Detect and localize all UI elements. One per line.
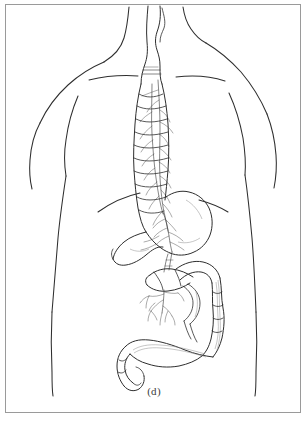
transverse-colon-lower (130, 354, 202, 367)
stomach-shading-1 (186, 200, 202, 219)
plexus-branch (159, 134, 169, 146)
scapular-line-left (89, 76, 138, 80)
colon-top-outer (176, 261, 220, 278)
waist-left (52, 176, 66, 312)
haustrum (213, 292, 222, 294)
plexus-branch (160, 122, 173, 133)
esophagus-segment (134, 158, 168, 161)
mesenteric-branch (164, 292, 178, 293)
haustrum (213, 305, 223, 307)
hip-left (51, 312, 53, 396)
esophagus-segment (134, 145, 168, 148)
plexus-branch (142, 154, 154, 166)
gastric-nerve-branch (154, 228, 167, 237)
esophagus-segment (135, 132, 168, 135)
stomach-greater-curvature (166, 191, 212, 255)
stomach-antrum (113, 232, 146, 259)
plexus-branch (142, 90, 158, 96)
duodenum-lower (147, 283, 190, 291)
colon-group (117, 261, 224, 390)
esophagus-right-wall (156, 6, 163, 84)
gastric-plexus (141, 212, 184, 252)
plexus-branch (147, 100, 159, 112)
mesenteric-branch (160, 313, 162, 325)
figure-caption: (d) (0, 385, 308, 397)
mesenteric-plexus (140, 290, 184, 325)
mesenteric-branch (148, 311, 151, 321)
gastric-nerve-branch (168, 232, 183, 241)
neck-left (104, 7, 129, 62)
small-intestine-group (183, 284, 200, 342)
ascending-colon-inner (202, 283, 213, 356)
gastric-nerve-branch (170, 242, 184, 250)
duodenum-mid-line (154, 272, 163, 290)
esophagus-lower-left (134, 84, 146, 232)
right-arm-inner (229, 93, 245, 175)
costal-margin-right (199, 200, 228, 212)
waist-right (245, 175, 256, 312)
stomach-group (112, 191, 213, 265)
plexus-branch (140, 126, 152, 139)
figure-page: (d) (0, 0, 308, 421)
colon-top-inner (180, 272, 212, 283)
small-intestine-loop-2 (188, 284, 200, 324)
plexus-branch (141, 140, 153, 152)
mesenteric-branch (172, 316, 175, 325)
mesenteric-branch (151, 311, 157, 320)
mesenteric-main-trunk (162, 290, 164, 313)
costal-margin-left (98, 193, 140, 212)
transverse-taenia-2 (134, 348, 206, 357)
esophagus-segment (134, 171, 168, 174)
duodenum-left-cap (146, 275, 150, 285)
body-outline-group (30, 7, 277, 396)
stomach-antrum-lower (113, 247, 163, 265)
gastric-nerve-branch (153, 219, 165, 228)
mesenteric-branch (151, 300, 163, 311)
esophagus-group (134, 6, 169, 232)
gastric-nerve-branch (156, 236, 169, 245)
transverse-taenia-1 (133, 345, 205, 354)
plexus-branch (160, 176, 171, 188)
mesenteric-branch (146, 296, 149, 308)
plexus-branch (149, 196, 159, 209)
gastric-nerve-trunk (163, 212, 172, 252)
duodenum-mid-line-2 (175, 270, 181, 286)
sigmoid-colon-inner (125, 354, 133, 383)
mesenteric-branch (165, 311, 168, 322)
neck-right (183, 7, 206, 43)
esophagus-left-wall (141, 6, 148, 84)
stomach-shading-2 (178, 238, 200, 243)
anatomical-figure (0, 0, 308, 421)
small-intestine-loop-1 (183, 286, 193, 321)
right-arm-outer (267, 114, 276, 188)
left-arm-outer (30, 123, 40, 189)
stomach-shading-3 (130, 249, 149, 251)
anal-canal (136, 367, 144, 376)
plexus-branch (140, 112, 152, 122)
pylorus (112, 249, 114, 259)
scapular-line-right (176, 76, 225, 81)
esophagus-segment (139, 94, 163, 97)
esophagus-segment (139, 210, 164, 213)
celiac-trunk (169, 252, 172, 270)
taenia-coli-1 (215, 282, 218, 349)
vagus-nerve-group (140, 80, 176, 231)
mesenteric-branch (163, 306, 172, 316)
transverse-colon-upper (126, 340, 213, 357)
hip-right (255, 312, 257, 396)
esophagus-segment (135, 184, 167, 187)
ascending-colon-outer (213, 278, 224, 357)
celiac-and-duodenum-group (140, 252, 193, 325)
haustrum (212, 331, 222, 333)
left-arm-inner (65, 96, 79, 176)
vagus-trunk (158, 80, 168, 231)
mesenteric-branch (178, 293, 184, 301)
mesenteric-branch (149, 294, 164, 296)
small-intestine-shade (195, 292, 197, 317)
plexus-branch (146, 182, 157, 195)
